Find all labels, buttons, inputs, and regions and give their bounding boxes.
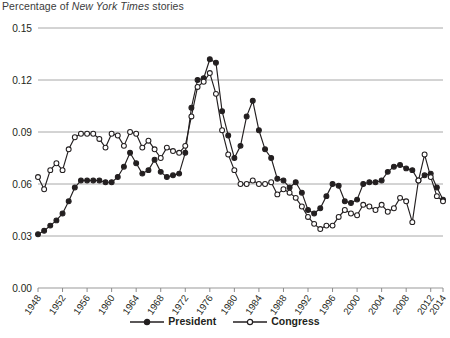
data-point: [244, 114, 249, 119]
data-point: [36, 232, 41, 237]
y-axis-tick-label: 0.03: [12, 231, 32, 242]
data-point: [164, 175, 169, 180]
data-point: [128, 150, 133, 155]
data-point: [54, 161, 59, 166]
legend-label-congress: Congress: [271, 316, 319, 328]
data-point: [342, 208, 347, 213]
chart-figure: Percentage of New York Times stories 0.0…: [0, 0, 450, 338]
data-point: [140, 171, 145, 176]
x-axis-tick-label: 2008: [390, 293, 411, 317]
data-point: [97, 136, 102, 141]
x-axis-tick-label: 1960: [96, 293, 117, 317]
data-point: [72, 185, 77, 190]
data-point: [275, 192, 280, 197]
y-axis-tick-label: 0.09: [12, 127, 32, 138]
data-point: [391, 164, 396, 169]
data-point: [220, 128, 225, 133]
data-point: [398, 195, 403, 200]
data-point: [232, 168, 237, 173]
x-axis-tick-label: 1984: [243, 292, 265, 316]
data-point: [306, 214, 311, 219]
data-point: [195, 78, 200, 83]
data-point: [91, 178, 96, 183]
data-point: [72, 135, 77, 140]
data-point: [226, 152, 231, 157]
data-point: [220, 109, 225, 114]
data-point: [42, 187, 47, 192]
data-point: [281, 178, 286, 183]
data-point: [404, 166, 409, 171]
data-point: [263, 147, 268, 152]
data-point: [146, 138, 151, 143]
data-point: [342, 199, 347, 204]
data-point: [36, 175, 41, 180]
data-point: [349, 201, 354, 206]
x-axis-tick-label: 1996: [316, 293, 337, 317]
data-point: [183, 143, 188, 148]
data-point: [434, 194, 439, 199]
data-point: [85, 131, 90, 136]
data-point: [293, 195, 298, 200]
x-axis-tick-label: 2004: [366, 292, 388, 316]
data-point: [256, 182, 261, 187]
data-point: [152, 147, 157, 152]
series-congress: [36, 71, 446, 232]
data-point: [171, 173, 176, 178]
data-point: [312, 221, 317, 226]
data-point: [79, 178, 84, 183]
data-point: [195, 84, 200, 89]
data-point: [299, 204, 304, 209]
data-point: [398, 162, 403, 167]
x-axis-tick-label: 1988: [267, 293, 288, 317]
data-point: [109, 131, 114, 136]
data-point: [391, 206, 396, 211]
data-point: [287, 190, 292, 195]
data-point: [287, 185, 292, 190]
data-point: [275, 176, 280, 181]
x-axis-tick-label: 1992: [292, 293, 313, 317]
data-point: [385, 169, 390, 174]
data-point: [91, 131, 96, 136]
data-point: [422, 152, 427, 157]
data-point: [97, 178, 102, 183]
data-point: [416, 178, 421, 183]
chart-plot-area: 0.000.030.060.090.120.151948195219561960…: [0, 0, 450, 338]
data-point: [263, 182, 268, 187]
series-president: [36, 57, 446, 237]
data-point: [293, 180, 298, 185]
y-axis-tick-label: 0.12: [12, 75, 32, 86]
data-point: [281, 187, 286, 192]
data-point: [306, 208, 311, 213]
data-point: [330, 223, 335, 228]
legend-item-congress: Congress: [233, 316, 319, 328]
data-point: [189, 114, 194, 119]
data-point: [103, 180, 108, 185]
data-point: [201, 79, 206, 84]
data-point: [238, 143, 243, 148]
x-axis-tick-label: 1956: [71, 293, 92, 317]
x-axis-tick-label: 1976: [194, 293, 215, 317]
data-point: [226, 133, 231, 138]
data-point: [109, 180, 114, 185]
data-point: [152, 157, 157, 162]
data-point: [164, 145, 169, 150]
data-point: [441, 199, 446, 204]
x-axis-tick-label: 1968: [145, 293, 166, 317]
data-point: [410, 220, 415, 225]
data-point: [146, 168, 151, 173]
data-point: [404, 199, 409, 204]
data-point: [214, 60, 219, 65]
data-point: [361, 182, 366, 187]
data-point: [60, 211, 65, 216]
data-point: [134, 131, 139, 136]
data-point: [79, 131, 84, 136]
data-point: [207, 71, 212, 76]
y-axis-tick-label: 0.00: [12, 283, 32, 294]
data-point: [410, 168, 415, 173]
data-point: [183, 150, 188, 155]
x-axis-tick-label: 1948: [22, 293, 43, 317]
data-point: [177, 171, 182, 176]
data-point: [115, 133, 120, 138]
legend-label-president: President: [168, 316, 216, 328]
data-point: [66, 199, 71, 204]
